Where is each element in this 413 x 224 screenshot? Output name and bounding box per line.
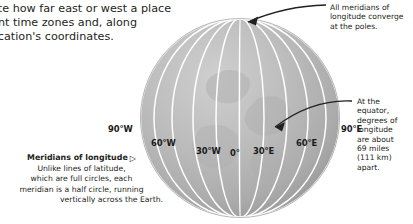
- triangle-right-icon: ▷: [130, 155, 136, 163]
- callout-poles-line-1: All meridians of: [330, 3, 412, 12]
- caption-line-4: vertically across the Earth.: [0, 195, 163, 205]
- longitude-label-0: 0°: [230, 148, 240, 158]
- longitude-label-60e: 60°E: [296, 138, 317, 148]
- illustration-canvas: 90°W 60°W 30°W 0° 30°E 60°E 90°E ate how…: [0, 0, 413, 224]
- callout-equator-line-2: equator,: [357, 106, 413, 115]
- intro-line-2: ent time zones and, along: [0, 16, 210, 30]
- callout-equator-line-4: longitude: [357, 125, 413, 134]
- longitude-label-60w: 60°W: [151, 138, 176, 148]
- callout-equator-line-1: At the: [357, 97, 413, 106]
- intro-paragraph: ate how far east or west a place ent tim…: [0, 2, 210, 44]
- callout-equator-line-6: 69 miles: [357, 144, 413, 153]
- longitude-label-30e: 30°E: [253, 146, 274, 156]
- intro-line-1: ate how far east or west a place: [0, 2, 210, 16]
- longitude-label-90w: 90°W: [108, 124, 133, 134]
- globe-illustration: [140, 18, 340, 218]
- caption-line-3: meridian is a half circle, running: [0, 185, 163, 195]
- callout-equator-line-5: are about: [357, 135, 413, 144]
- callout-equator-line-7: (111 km): [357, 153, 413, 162]
- callout-poles-line-2: longitude converge: [330, 12, 412, 21]
- callout-equator-line-8: apart.: [357, 163, 413, 172]
- caption-title-text: Meridians of longitude: [27, 153, 128, 162]
- caption-line-1: Unlike lines of latitude,: [0, 164, 163, 174]
- caption-title: Meridians of longitude▷: [0, 153, 163, 163]
- caption-block: Meridians of longitude▷ Unlike lines of …: [0, 153, 163, 206]
- longitude-label-30w: 30°W: [196, 146, 221, 156]
- callout-equator-line-3: degrees of: [357, 116, 413, 125]
- callout-equator: At the equator, degrees of longitude are…: [357, 97, 413, 172]
- callout-poles-line-3: at the poles.: [330, 22, 412, 31]
- caption-line-2: which are full circles, each: [0, 174, 163, 184]
- globe-svg: [140, 18, 340, 218]
- callout-poles: All meridians of longitude converge at t…: [330, 3, 412, 31]
- intro-line-3: ocation's coordinates.: [0, 30, 210, 44]
